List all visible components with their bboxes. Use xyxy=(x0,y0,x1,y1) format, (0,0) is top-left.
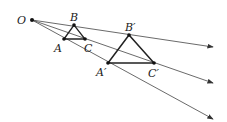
label-b-prime: B′ xyxy=(124,21,136,34)
label-c: C xyxy=(84,42,93,55)
label-b: B xyxy=(69,11,78,24)
label-o: O xyxy=(17,14,26,27)
label-a: A xyxy=(53,42,62,55)
homothety-figure: O B A C B′ A′ C′ xyxy=(0,0,227,122)
label-a-prime: A′ xyxy=(95,66,107,79)
ray-oa xyxy=(32,20,213,119)
point-o xyxy=(30,18,34,22)
point-c-prime xyxy=(152,61,156,65)
label-c-prime: C′ xyxy=(148,67,159,80)
diagram: O B A C B′ A′ C′ xyxy=(0,0,227,122)
point-c xyxy=(83,37,87,41)
point-a xyxy=(62,37,66,41)
point-a-prime xyxy=(106,61,110,65)
